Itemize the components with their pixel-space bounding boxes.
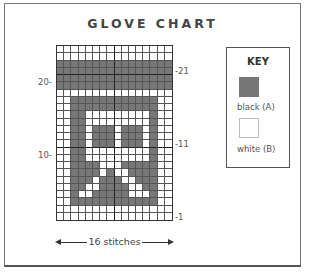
stitch-cell [136,169,143,176]
stitch-cell [150,53,157,60]
row-label-right: -11 [175,140,189,148]
stitch-cell [93,133,100,140]
stitch-cell [136,90,143,97]
stitch-cell [143,140,150,147]
stitch-cell [129,162,136,169]
stitch-cell [100,119,107,126]
stitch-cell [122,104,129,111]
stitch-cell [100,104,107,111]
stitch-cell [115,140,122,147]
stitch-cell [165,119,172,126]
stitch-cell [136,133,143,140]
stitch-cell [143,46,150,53]
stitch-cell [165,46,172,53]
stitch-cell [150,104,157,111]
stitch-cell [129,177,136,184]
stitch-cell [100,191,107,198]
stitch-cell [57,140,64,147]
stitch-cell [165,61,172,68]
stitch-cell [136,213,143,220]
stitch-cell [93,191,100,198]
stitch-cell [107,90,114,97]
stitch-cell [86,104,93,111]
stitch-cell [129,68,136,75]
stitch-cell [165,133,172,140]
stitch-cell [57,213,64,220]
stitch-cell [100,126,107,133]
stitch-cell [143,61,150,68]
stitch-cell [93,119,100,126]
stitch-cell [122,177,129,184]
stitch-cell [100,61,107,68]
key-label-black: black (A) [237,102,275,112]
stitch-cell [115,119,122,126]
stitch-cell [57,177,64,184]
stitch-cell [150,191,157,198]
stitch-cell [79,53,86,60]
stitch-cell [100,133,107,140]
stitch-cell [107,191,114,198]
stitch-cell [86,119,93,126]
stitch-cell [64,184,71,191]
stitch-cell [64,104,71,111]
stitch-cell [143,191,150,198]
stitch-cell [71,206,78,213]
row-label-left: 20- [38,78,52,86]
stitch-cell [158,140,165,147]
stitch-cell [143,53,150,60]
stitch-cell [129,82,136,89]
stitch-cell [136,148,143,155]
stitch-cell [64,119,71,126]
stitch-cell [150,111,157,118]
stitch-cell [143,177,150,184]
stitch-cell [57,68,64,75]
stitch-cell [79,162,86,169]
stitch-cell [86,82,93,89]
stitch-cell [143,198,150,205]
stitch-cell [71,169,78,176]
stitch-cell [150,97,157,104]
stitch-cell [100,53,107,60]
stitch-cell [86,162,93,169]
stitch-cell [150,90,157,97]
stitch-cell [115,126,122,133]
stitch-cell [158,53,165,60]
stitch-cell [158,75,165,82]
stitch-cell [86,61,93,68]
stitch-cell [93,148,100,155]
stitch-cell [115,162,122,169]
stitch-cell [79,177,86,184]
stitch-cell [158,191,165,198]
stitch-cell [64,213,71,220]
stitch-cell [136,206,143,213]
width-label: 16 stitches [87,236,141,247]
stitch-cell [122,61,129,68]
stitch-cell [129,155,136,162]
stitch-cell [107,68,114,75]
stitch-cell [86,97,93,104]
stitch-cell [143,206,150,213]
stitch-cell [115,148,122,155]
stitch-cell [107,177,114,184]
stitch-cell [165,177,172,184]
stitch-cell [143,148,150,155]
stitch-cell [136,162,143,169]
stitch-cell [93,169,100,176]
stitch-cell [136,53,143,60]
stitch-cell [93,82,100,89]
stitch-cell [57,119,64,126]
stitch-cell [64,126,71,133]
stitch-cell [79,75,86,82]
stitch-cell [115,155,122,162]
stitch-cell [79,111,86,118]
stitch-cell [57,97,64,104]
stitch-cell [79,198,86,205]
stitch-cell [57,126,64,133]
stitch-cell [165,111,172,118]
stitch-cell [64,148,71,155]
stitch-cell [158,184,165,191]
stitch-cell [158,133,165,140]
stitch-cell [165,184,172,191]
stitch-cell [71,213,78,220]
stitch-cell [71,68,78,75]
